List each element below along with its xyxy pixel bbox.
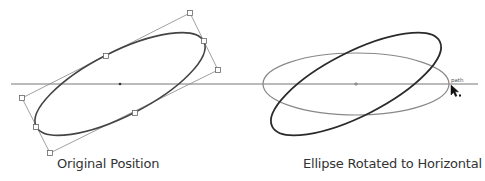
handle-right-upper[interactable] bbox=[202, 39, 207, 44]
caption-rotated-to-horizontal: Ellipse Rotated to Horizontal bbox=[303, 156, 482, 171]
cursor-path-label: path bbox=[451, 77, 464, 84]
original-position-panel bbox=[20, 11, 221, 156]
ellipse-diagram: path bbox=[0, 0, 485, 181]
handle-top-right[interactable] bbox=[188, 11, 193, 16]
arrow-cursor-icon bbox=[451, 85, 461, 97]
handle-bottom-mid[interactable] bbox=[133, 111, 138, 116]
handle-left-lower[interactable] bbox=[34, 125, 39, 130]
center-point bbox=[119, 83, 122, 86]
handle-left[interactable] bbox=[20, 96, 25, 101]
handle-bottom-left[interactable] bbox=[48, 151, 53, 156]
handle-right[interactable] bbox=[216, 68, 221, 73]
caption-original-position: Original Position bbox=[57, 156, 159, 171]
handle-top-mid[interactable] bbox=[104, 54, 109, 59]
